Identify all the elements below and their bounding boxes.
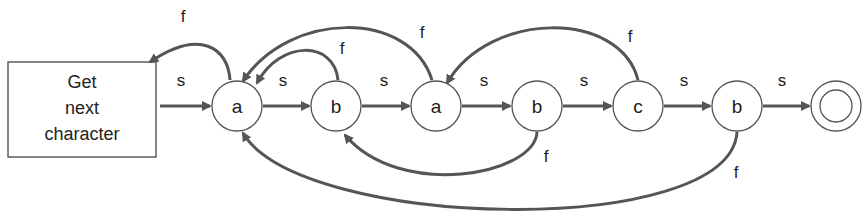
- state-node-4: b: [512, 81, 562, 131]
- label-f-n4-n2: f: [544, 147, 549, 166]
- start-box: Get next character: [8, 62, 156, 157]
- state-label-1: a: [232, 96, 243, 117]
- label-f-n1-box: f: [181, 7, 186, 26]
- label-f-n5-n3: f: [628, 27, 633, 46]
- state-node-1: a: [212, 81, 262, 131]
- label-s-n5-n6: s: [680, 71, 689, 90]
- label-f-n6-n1: f: [734, 163, 739, 182]
- state-label-2: b: [331, 96, 342, 117]
- state-node-5: c: [613, 81, 663, 131]
- label-s-n1-n2: s: [279, 71, 288, 90]
- edge-n5-n3-fail: [447, 28, 638, 83]
- edge-n6-n1-fail: [243, 132, 737, 209]
- edge-n1-box-fail: [150, 44, 230, 80]
- start-box-line-1: Get: [67, 72, 96, 92]
- label-f-n3-n1: f: [420, 23, 425, 42]
- state-label-4: b: [532, 96, 543, 117]
- label-s-start-n1: s: [177, 71, 186, 90]
- state-label-6: b: [732, 96, 743, 117]
- edge-n2-n1-fail: [257, 50, 338, 83]
- state-node-3: a: [411, 81, 461, 131]
- state-label-3: a: [431, 96, 442, 117]
- start-box-line-3: character: [44, 124, 119, 144]
- label-s-n2-n3: s: [380, 71, 389, 90]
- edge-n4-n2-fail: [345, 132, 537, 175]
- label-s-n6-final: s: [778, 71, 787, 90]
- fsm-diagram: Get next character a b a: [0, 0, 865, 217]
- label-s-n3-n4: s: [480, 71, 489, 90]
- label-s-n4-n5: s: [580, 71, 589, 90]
- state-node-6: b: [712, 81, 762, 131]
- label-f-n2-n1: f: [340, 39, 345, 58]
- final-state-node: [811, 81, 861, 131]
- state-label-5: c: [633, 96, 643, 117]
- success-labels: s s s s s s s: [177, 71, 787, 90]
- state-node-2: b: [311, 81, 361, 131]
- start-box-line-2: next: [65, 98, 99, 118]
